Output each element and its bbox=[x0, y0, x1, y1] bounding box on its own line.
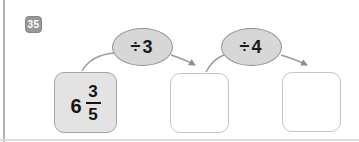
connector-startbox-to-oval1 bbox=[82, 53, 114, 71]
operation-label: ÷4 bbox=[240, 37, 264, 58]
arrow-oval2-to-answer2 bbox=[281, 55, 307, 65]
left-margin-rule bbox=[3, 0, 5, 142]
fraction-denominator: 5 bbox=[88, 105, 97, 124]
start-value-box: 6 3 5 bbox=[54, 72, 117, 133]
problem-number-badge: 35 bbox=[25, 16, 42, 33]
mixed-number-whole: 6 bbox=[70, 96, 81, 116]
arrow-oval1-to-answer1 bbox=[171, 55, 195, 65]
problem-number: 35 bbox=[27, 19, 39, 30]
bottom-divider-rule bbox=[0, 139, 359, 141]
answer-box-2[interactable] bbox=[282, 72, 341, 132]
fraction-bar bbox=[86, 102, 101, 104]
connector-answer1-to-oval2 bbox=[206, 55, 224, 72]
answer-box-1[interactable] bbox=[170, 73, 229, 133]
operation-oval-divide-3: ÷3 bbox=[112, 28, 173, 66]
fraction-numerator: 3 bbox=[88, 82, 97, 101]
worksheet-panel: 35 ÷3 ÷4 6 3 5 bbox=[0, 0, 359, 142]
operation-label: ÷3 bbox=[131, 37, 155, 58]
mixed-number-fraction: 3 5 bbox=[86, 82, 101, 124]
operation-oval-divide-4: ÷4 bbox=[221, 28, 282, 66]
